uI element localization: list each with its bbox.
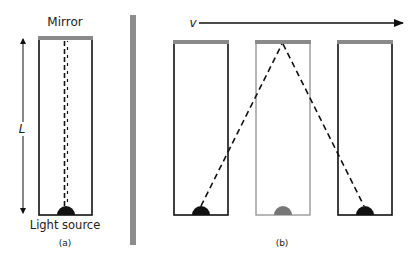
light-path-diagonal-down	[283, 44, 364, 206]
light-source-b3	[356, 206, 374, 215]
light-source-a	[57, 206, 75, 215]
mirror-a	[38, 36, 93, 40]
light-source-b1	[192, 206, 210, 215]
caption-a: (a)	[59, 238, 72, 248]
light-path-diagonal-up	[201, 44, 282, 206]
panel-divider	[130, 15, 136, 245]
mirror-label: Mirror	[47, 15, 82, 29]
length-label: L	[19, 122, 26, 136]
mirror-b3	[337, 40, 393, 44]
light-clock-box-b1	[174, 42, 228, 215]
light-clock-diagram: Mirror L Light source (a) v	[0, 0, 412, 260]
light-source-b2	[274, 206, 292, 215]
panel-a: Mirror L Light source (a)	[19, 15, 101, 248]
light-source-label: Light source	[30, 218, 101, 232]
mirror-b2	[255, 40, 311, 44]
light-clock-box-b3	[338, 42, 392, 215]
panel-b: v (b)	[173, 16, 403, 248]
light-clock-box-a	[39, 38, 92, 215]
caption-b: (b)	[276, 238, 289, 248]
velocity-label: v	[189, 16, 197, 30]
light-clock-box-b2	[256, 42, 310, 215]
mirror-b1	[173, 40, 229, 44]
